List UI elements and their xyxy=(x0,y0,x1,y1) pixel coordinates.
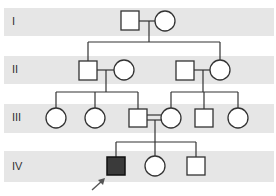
pedigree-chart xyxy=(0,0,276,196)
individual-IV-3-male xyxy=(187,157,205,175)
individual-II-1-male xyxy=(79,61,97,80)
individual-III-3-male xyxy=(129,109,147,127)
individual-III-5-male xyxy=(195,109,213,127)
individual-II-4-female xyxy=(210,60,230,80)
proband-arrow-icon xyxy=(92,178,105,190)
individual-III-1-female xyxy=(46,108,66,128)
individual-II-2-female xyxy=(114,60,134,80)
individual-IV-2-female xyxy=(145,156,165,176)
individual-III-6-female xyxy=(228,108,248,128)
individual-I-1-male xyxy=(121,11,139,30)
individual-III-4-female xyxy=(161,108,181,128)
individual-I-2-female xyxy=(155,11,175,31)
individual-IV-1-affected-male-proband xyxy=(107,157,125,175)
individual-II-3-male xyxy=(176,61,194,80)
individual-III-2-female xyxy=(85,108,105,128)
